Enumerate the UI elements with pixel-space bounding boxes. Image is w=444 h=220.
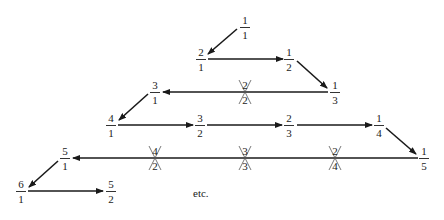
fraction-bar <box>330 92 340 93</box>
denominator: 1 <box>238 29 252 41</box>
arrow-3-1-to-4-1 <box>119 94 148 120</box>
fraction-3-2: 32 <box>193 112 207 139</box>
fraction-bar <box>284 125 294 126</box>
fraction-1-5: 15 <box>417 145 431 172</box>
denominator: 3 <box>282 127 296 139</box>
denominator: 2 <box>282 61 296 73</box>
numerator: 1 <box>417 145 431 157</box>
arrow-5-1-to-6-1 <box>29 161 58 187</box>
numerator: 3 <box>148 79 162 91</box>
denominator: 4 <box>328 160 342 172</box>
fraction-1-3: 13 <box>328 79 342 106</box>
arrow-1-1-to-2-1 <box>208 29 237 54</box>
fraction-bar <box>284 59 294 60</box>
denominator: 3 <box>328 94 342 106</box>
crossed-fraction-2-2: 22 <box>238 79 252 106</box>
fraction-bar <box>419 158 429 159</box>
fraction-1-2: 12 <box>282 46 296 73</box>
numerator: 3 <box>193 112 207 124</box>
numerator: 2 <box>194 46 208 58</box>
fraction-bar <box>240 27 250 28</box>
denominator: 1 <box>14 193 28 205</box>
fraction-bar <box>150 92 160 93</box>
fraction-bar <box>16 191 26 192</box>
numerator: 3 <box>238 145 252 157</box>
denominator: 3 <box>238 160 252 172</box>
fraction-bar <box>195 125 205 126</box>
numerator: 4 <box>148 145 162 157</box>
fraction-5-1: 51 <box>58 145 72 172</box>
numerator: 2 <box>282 112 296 124</box>
crossed-fraction-4-2: 42 <box>148 145 162 172</box>
arrow-1-2-to-1-3 <box>297 61 327 88</box>
numerator: 4 <box>104 112 118 124</box>
denominator: 1 <box>58 160 72 172</box>
fraction-4-1: 41 <box>104 112 118 139</box>
numerator: 2 <box>328 145 342 157</box>
numerator: 6 <box>14 178 28 190</box>
rational-enumeration-diagram: 1121123122134132231451423324156152 etc. <box>0 0 444 220</box>
numerator: 1 <box>328 79 342 91</box>
crossed-fraction-3-3: 33 <box>238 145 252 172</box>
fraction-bar <box>106 191 116 192</box>
fraction-6-1: 61 <box>14 178 28 205</box>
arrow-layer <box>0 0 444 220</box>
denominator: 2 <box>193 127 207 139</box>
fraction-bar <box>374 125 384 126</box>
fraction-1-4: 14 <box>372 112 386 139</box>
fraction-bar <box>196 59 206 60</box>
denominator: 1 <box>194 61 208 73</box>
fraction-3-1: 31 <box>148 79 162 106</box>
arrow-1-4-to-1-5 <box>386 128 416 154</box>
fraction-1-1: 11 <box>238 14 252 41</box>
fraction-bar <box>106 125 116 126</box>
fraction-5-2: 52 <box>104 178 118 205</box>
denominator: 1 <box>148 94 162 106</box>
denominator: 4 <box>372 127 386 139</box>
denominator: 2 <box>104 193 118 205</box>
numerator: 1 <box>372 112 386 124</box>
denominator: 1 <box>104 127 118 139</box>
numerator: 1 <box>238 14 252 26</box>
denominator: 2 <box>238 94 252 106</box>
crossed-fraction-2-4: 24 <box>328 145 342 172</box>
fraction-2-3: 23 <box>282 112 296 139</box>
fraction-bar <box>60 158 70 159</box>
numerator: 2 <box>238 79 252 91</box>
denominator: 2 <box>148 160 162 172</box>
numerator: 5 <box>104 178 118 190</box>
fraction-2-1: 21 <box>194 46 208 73</box>
numerator: 1 <box>282 46 296 58</box>
denominator: 5 <box>417 160 431 172</box>
numerator: 5 <box>58 145 72 157</box>
etc-label: etc. <box>193 187 209 199</box>
